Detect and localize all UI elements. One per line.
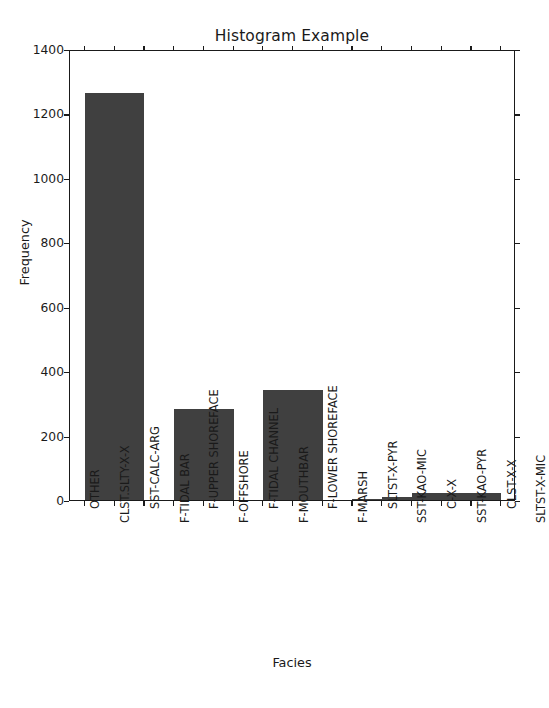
y-axis-tick-mark-right: [515, 50, 520, 51]
x-axis-tick-mark-top: [441, 46, 442, 51]
y-axis-tick-mark-right: [515, 437, 520, 438]
plot-area: [69, 50, 515, 501]
y-axis-tick-mark-right: [515, 179, 520, 180]
x-axis-tick-mark-top: [203, 46, 204, 51]
x-axis-tick-label: F-LOWER SHOREFACE: [326, 385, 340, 509]
x-axis-tick-label: C-X-X: [445, 479, 459, 509]
x-axis-tick-mark-top: [143, 46, 144, 51]
x-axis-tick-mark-top: [233, 46, 234, 51]
y-axis-tick-label: 1000: [18, 172, 64, 186]
x-axis-tick-mark-top: [500, 46, 501, 51]
x-axis-tick-label: F-UPPER SHOREFACE: [207, 389, 221, 509]
y-axis-tick-labels: 0200400600800100012001400: [16, 50, 64, 501]
x-axis-tick-label: F-OFFSHORE: [237, 450, 251, 523]
chart-title: Histogram Example: [69, 27, 515, 45]
x-axis-tick-label: OTHER: [88, 469, 102, 509]
x-axis-tick-label: F-TIDAL CHANNEL: [267, 408, 281, 509]
x-axis-tick-label: SST-KAO-MIC: [415, 449, 429, 523]
x-axis-tick-mark-top: [470, 46, 471, 51]
x-axis-tick-mark-top: [381, 46, 382, 51]
histogram-bar: [85, 93, 144, 501]
x-axis-tick-label: SLTST-X-PYR: [386, 441, 400, 510]
y-axis-tick-label: 0: [18, 494, 64, 508]
y-axis-tick-mark-right: [515, 243, 520, 244]
bars-layer: [70, 51, 514, 500]
x-axis-tick-mark-top: [411, 46, 412, 51]
x-axis-tick-label: SST-KAO-PYR: [475, 449, 489, 523]
y-axis-tick-label: 1200: [18, 107, 64, 121]
x-axis-tick-label: CLST.SLTY-X-X: [118, 446, 132, 523]
x-axis-tick-mark-top: [84, 46, 85, 51]
x-axis-tick-mark-top: [173, 46, 174, 51]
x-axis-tick-label: F-TIDAL BAR: [178, 453, 192, 523]
x-axis-tick-label: SST-CALC-ARG: [148, 426, 162, 509]
y-axis-tick-mark-right: [515, 308, 520, 309]
x-axis-tick-label: F-MARSH: [356, 471, 370, 523]
x-axis-tick-labels: OTHERCLST.SLTY-X-XSST-CALC-ARGF-TIDAL BA…: [69, 501, 515, 671]
x-axis-tick-mark-top: [114, 46, 115, 51]
y-axis-tick-mark-right: [515, 372, 520, 373]
y-axis-tick-label: 800: [18, 236, 64, 250]
x-axis-tick-label: F-MOUTHBAR: [297, 446, 311, 523]
x-axis-tick-label: SLTST-X-MIC: [534, 455, 548, 523]
x-axis-tick-mark-top: [292, 46, 293, 51]
x-axis-tick-mark-top: [262, 46, 263, 51]
histogram-figure: Histogram Example Frequency 020040060080…: [0, 0, 549, 708]
x-axis-tick-label: CLST-X-X: [505, 459, 519, 509]
y-axis-tick-label: 600: [18, 301, 64, 315]
x-axis-tick-marks-top: [69, 45, 515, 51]
x-axis-tick-mark-top: [351, 46, 352, 51]
y-axis-tick-label: 1400: [18, 43, 64, 57]
y-axis-tick-label: 400: [18, 365, 64, 379]
x-axis-tick-mark-top: [322, 46, 323, 51]
y-axis-tick-mark-right: [515, 114, 520, 115]
x-axis-label: Facies: [69, 655, 515, 670]
y-axis-tick-label: 200: [18, 430, 64, 444]
